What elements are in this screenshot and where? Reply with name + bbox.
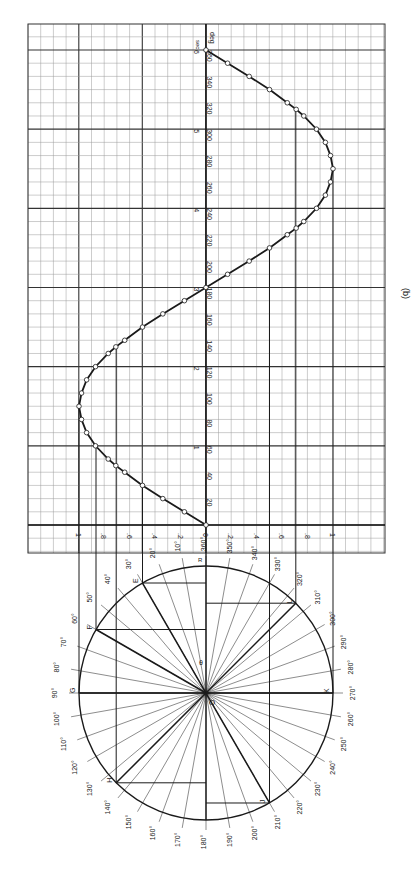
degree-tick-label: 200 — [206, 261, 213, 273]
data-point — [106, 457, 111, 462]
angle-label: 40° — [104, 573, 111, 584]
seconds-tick-label: 3 — [193, 288, 200, 292]
angle-label: 240° — [329, 760, 336, 775]
angle-ray — [206, 564, 253, 693]
angle-label: 310° — [314, 590, 321, 605]
angle-label: 200° — [251, 826, 258, 841]
data-point — [182, 298, 187, 303]
amplitude-tick-label: .4 — [253, 533, 260, 539]
point-label: E — [133, 578, 140, 583]
radius-label: R — [198, 557, 203, 563]
data-point — [182, 510, 187, 515]
angle-label: 50° — [86, 592, 93, 603]
angle-label: 260° — [347, 711, 354, 726]
angle-label: 80° — [53, 662, 60, 673]
angle-ray — [206, 588, 294, 693]
angle-ray — [206, 693, 311, 781]
angle-ray — [77, 646, 206, 693]
degree-unit-label: deg — [208, 32, 216, 44]
angle-ray — [101, 693, 206, 781]
data-point — [331, 166, 336, 171]
point-label: K — [323, 688, 330, 693]
data-point — [225, 272, 230, 277]
data-point — [314, 206, 319, 211]
data-point — [122, 470, 127, 475]
theta-label: θ — [199, 659, 203, 666]
point-label: G — [69, 688, 76, 693]
data-point — [323, 193, 328, 198]
seconds-tick-label: 4 — [193, 208, 200, 212]
data-point — [247, 74, 252, 79]
angle-ray — [118, 588, 206, 693]
data-point — [140, 483, 145, 488]
angle-label: 20° — [149, 547, 156, 558]
degree-tick-label: 100 — [206, 393, 213, 405]
amplitude-tick-label: .4 — [151, 533, 158, 539]
data-point — [84, 378, 89, 383]
amplitude-tick-label: 0 — [202, 533, 209, 537]
data-point — [225, 61, 230, 66]
angle-label: 350° — [226, 539, 233, 554]
data-point — [247, 259, 252, 264]
seconds-tick-label: 2 — [193, 367, 200, 371]
degree-tick-label: 260 — [206, 182, 213, 194]
data-point — [114, 463, 119, 468]
seconds-tick-label: 6 — [193, 50, 200, 54]
degree-tick-label: 60 — [206, 446, 213, 454]
point-label: H — [106, 778, 113, 783]
seconds-tick-label: 1 — [193, 446, 200, 450]
degree-tick-label: 320 — [206, 103, 213, 115]
angle-label: 70° — [60, 637, 67, 648]
angle-label: 90° — [51, 688, 58, 699]
data-point — [323, 140, 328, 145]
data-point — [106, 351, 111, 356]
angle-ray — [159, 564, 206, 693]
data-point — [294, 107, 299, 112]
data-point — [84, 430, 89, 435]
angle-label: 220° — [296, 800, 303, 815]
point-label: L — [286, 599, 293, 603]
angle-ray — [101, 605, 206, 693]
angle-label: 150° — [126, 815, 133, 830]
degree-tick-label: 120 — [206, 367, 213, 379]
figure-caption: (b) — [401, 288, 411, 299]
amplitude-tick-label: .6 — [278, 533, 285, 539]
data-point — [93, 364, 98, 369]
amplitude-tick-label: .8 — [100, 533, 107, 539]
angle-ray — [206, 646, 335, 693]
data-point — [93, 444, 98, 449]
data-point — [122, 338, 127, 343]
angle-label: 170° — [174, 832, 181, 847]
data-point — [285, 100, 290, 105]
angle-label: 120° — [71, 760, 78, 775]
angle-label: 110° — [60, 737, 67, 751]
point-label: F — [86, 625, 93, 629]
seconds-tick-label: 5 — [193, 129, 200, 133]
angle-label: 210° — [275, 815, 282, 830]
data-point — [267, 87, 272, 92]
figure-canvas: 360°10°20°30°40°50°60°70°80°90°100°110°1… — [0, 0, 420, 893]
angle-label: 30° — [126, 558, 133, 569]
angle-label: 180° — [200, 835, 207, 850]
degree-tick-label: 280 — [206, 156, 213, 168]
angle-label: 60° — [71, 613, 78, 624]
angle-ray — [77, 693, 206, 740]
seconds-unit-label: sec — [195, 40, 201, 49]
angle-label: 280° — [347, 660, 354, 675]
angle-ray — [206, 693, 294, 798]
degree-tick-label: 340 — [206, 76, 213, 88]
amplitude-tick-label: .2 — [227, 533, 234, 539]
data-point — [114, 345, 119, 350]
angle-label: 300° — [329, 611, 336, 626]
data-point — [161, 312, 166, 317]
angle-label: 230° — [314, 781, 321, 796]
data-point — [314, 127, 319, 132]
degree-tick-label: 80 — [206, 419, 213, 427]
point-label: J — [260, 799, 267, 803]
degree-tick-label: 180 — [206, 288, 213, 300]
angle-label: 340° — [251, 546, 258, 561]
angle-label: 270° — [349, 686, 356, 701]
angle-label: 190° — [226, 832, 233, 847]
degree-tick-label: 40 — [206, 472, 213, 480]
sine-wave-generation-figure: 360°10°20°30°40°50°60°70°80°90°100°110°1… — [0, 0, 420, 893]
